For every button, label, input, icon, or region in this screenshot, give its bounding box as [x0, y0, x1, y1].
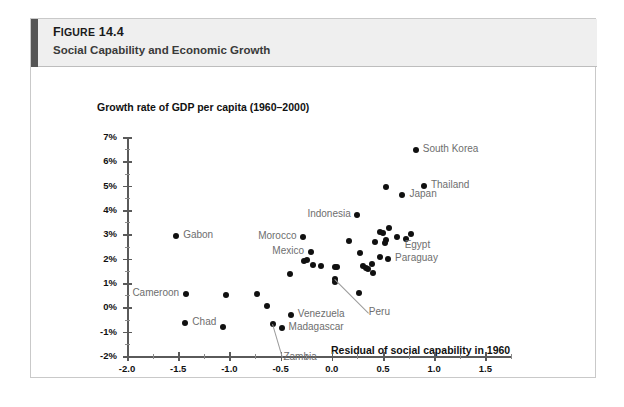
- data-point: [394, 234, 400, 240]
- y-tick-major: [123, 259, 132, 261]
- data-point: [310, 262, 316, 268]
- y-tick-major: [123, 210, 132, 212]
- y-tick-minor: [125, 149, 130, 150]
- data-point: [334, 264, 340, 270]
- x-tick-major: [178, 352, 180, 361]
- data-point: [369, 261, 375, 267]
- figure-header: FIGURE 14.4 Social Capability and Econom…: [31, 19, 597, 67]
- y-tick-major: [123, 186, 132, 188]
- y-tick-major: [123, 137, 132, 139]
- point-label: Thailand: [431, 179, 469, 190]
- data-point: [308, 249, 314, 255]
- y-tick-label: 4%: [83, 204, 117, 215]
- point-label: Gabon: [183, 229, 213, 240]
- y-tick-major: [123, 161, 132, 163]
- y-tick-label: 1%: [83, 277, 117, 288]
- data-point: [220, 324, 226, 330]
- y-tick-minor: [125, 295, 130, 296]
- x-tick-minor: [460, 354, 461, 359]
- x-tick-label: 1.5: [467, 363, 503, 374]
- plot-area: Growth rate of GDP per capita (1960–2000…: [31, 67, 597, 378]
- data-point: [264, 303, 270, 309]
- point-label: Peru: [369, 306, 390, 317]
- x-tick-major: [434, 352, 436, 361]
- x-tick-major: [127, 352, 129, 361]
- figure-number: FIGURE 14.4: [53, 25, 124, 39]
- y-tick-label: 5%: [83, 180, 117, 191]
- y-tick-major: [123, 307, 132, 309]
- x-tick-label: -0.5: [263, 363, 299, 374]
- data-point: [287, 271, 293, 277]
- point-label: Japan: [409, 188, 436, 199]
- point-label: Cameroon: [132, 287, 179, 298]
- point-label: Chad: [192, 316, 216, 327]
- data-point: [377, 254, 383, 260]
- x-tick-label: 1.0: [416, 363, 452, 374]
- data-point: [354, 212, 360, 218]
- data-point: [385, 256, 391, 262]
- data-point: [288, 312, 294, 318]
- data-point: [182, 320, 188, 326]
- point-label: Madagascar: [289, 321, 344, 332]
- x-tick-minor: [153, 354, 154, 359]
- y-tick-minor: [125, 320, 130, 321]
- data-point: [357, 250, 363, 256]
- y-tick-label: 7%: [83, 131, 117, 142]
- y-tick-minor: [125, 271, 130, 272]
- y-tick-major: [123, 283, 132, 285]
- data-point: [183, 291, 189, 297]
- x-tick-minor: [204, 354, 205, 359]
- y-tick-minor: [125, 198, 130, 199]
- y-tick-label: 0%: [83, 301, 117, 312]
- point-label: Zambia: [283, 351, 316, 362]
- point-label: Egypt: [405, 239, 431, 250]
- point-label: Venezuela: [298, 308, 345, 319]
- point-label: South Korea: [423, 143, 479, 154]
- y-tick-label: 6%: [83, 155, 117, 166]
- data-point: [382, 240, 388, 246]
- figure-card: FIGURE 14.4 Social Capability and Econom…: [30, 18, 596, 378]
- data-point: [413, 147, 419, 153]
- x-tick-label: -2.0: [109, 363, 145, 374]
- data-point: [279, 325, 285, 331]
- x-tick-minor: [409, 354, 410, 359]
- y-tick-minor: [125, 222, 130, 223]
- data-point: [304, 257, 310, 263]
- x-tick-label: -1.0: [211, 363, 247, 374]
- data-point: [173, 233, 179, 239]
- header-accent-bar: [31, 19, 38, 67]
- figure-number-prefix: F: [53, 25, 61, 39]
- x-tick-label: 0.5: [365, 363, 401, 374]
- data-point: [254, 291, 260, 297]
- x-tick-major: [485, 352, 487, 361]
- y-tick-minor: [125, 344, 130, 345]
- y-tick-minor: [125, 174, 130, 175]
- data-point: [318, 263, 324, 269]
- y-tick-major: [123, 332, 132, 334]
- y-tick-minor: [125, 247, 130, 248]
- y-tick-label: 2%: [83, 253, 117, 264]
- y-tick-major: [123, 234, 132, 236]
- y-axis-title: Growth rate of GDP per capita (1960–2000…: [97, 101, 309, 113]
- data-point: [300, 234, 306, 240]
- x-axis-line: [127, 356, 511, 358]
- y-tick-label: 3%: [83, 228, 117, 239]
- point-label: Mexico: [272, 245, 304, 256]
- data-point: [370, 270, 376, 276]
- x-tick-minor: [511, 354, 512, 359]
- data-point: [386, 225, 392, 231]
- figure-title: Social Capability and Economic Growth: [53, 44, 270, 56]
- x-tick-minor: [357, 354, 358, 359]
- point-label: Paraguay: [395, 252, 438, 263]
- data-point: [399, 192, 405, 198]
- x-tick-major: [332, 352, 334, 361]
- x-tick-major: [229, 352, 231, 361]
- y-tick-label: -2%: [83, 350, 117, 361]
- data-point: [223, 292, 229, 298]
- x-tick-major: [383, 352, 385, 361]
- point-label: Indonesia: [307, 208, 350, 219]
- data-point: [356, 290, 362, 296]
- data-point: [372, 239, 378, 245]
- x-tick-label: -1.5: [160, 363, 196, 374]
- data-point: [408, 231, 414, 237]
